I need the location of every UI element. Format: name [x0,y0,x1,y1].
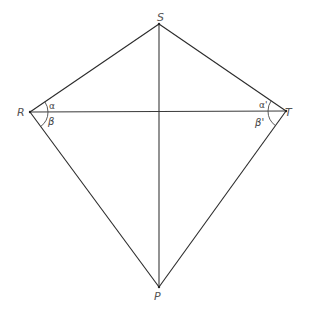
edge-tp [159,111,286,287]
angle-arc-beta-prime [268,111,275,126]
vertex-label-s: S [157,11,164,24]
angle-arc-beta [41,112,48,127]
angle-label-beta: β [47,116,55,127]
vertex-label-r: R [17,106,25,119]
vertex-label-t: T [285,106,293,119]
vertex-dot-r [29,111,31,113]
edge-st [159,24,286,111]
kite-diagram: S R T P α β α' β' [0,0,310,309]
angle-arc-alpha-prime [268,101,271,111]
angle-arc-alpha [45,102,48,112]
edge-rs [30,24,159,112]
vertex-dot-p [158,286,160,288]
edge-pr [30,112,159,287]
angle-label-alpha: α [49,101,55,111]
diagonal-rt [30,111,286,112]
vertex-label-p: P [154,290,161,303]
angle-label-beta-prime: β' [254,117,264,128]
angle-label-alpha-prime: α' [259,100,267,110]
